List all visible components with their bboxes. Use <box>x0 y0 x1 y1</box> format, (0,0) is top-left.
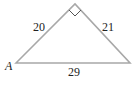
side-label-left-leg: 20 <box>33 20 45 34</box>
right-angle-marker <box>69 10 81 16</box>
vertex-label-a: A <box>4 59 13 73</box>
triangle-diagram: 20 21 29 A <box>0 0 135 88</box>
side-label-hypotenuse: 29 <box>68 65 80 79</box>
side-label-right-leg: 21 <box>102 20 114 34</box>
